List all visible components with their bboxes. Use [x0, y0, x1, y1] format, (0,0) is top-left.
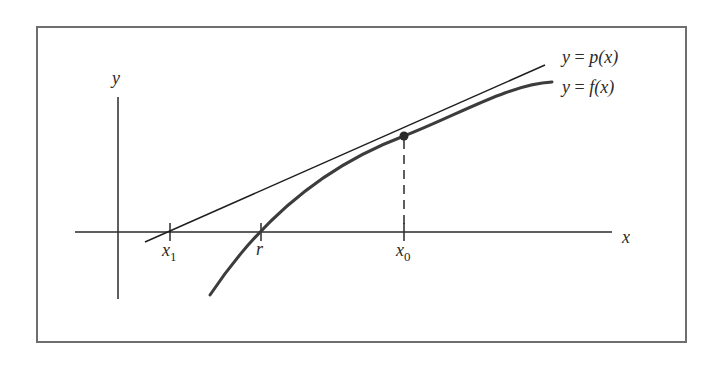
label-curve-f: y = f(x): [560, 77, 614, 98]
tick-label-r: r: [256, 239, 264, 259]
tick-label-x0: x0: [395, 240, 411, 264]
y-axis-label: y: [110, 68, 120, 88]
tangent-line-p: [145, 65, 545, 242]
label-tangent-p: y = p(x): [560, 47, 618, 68]
tick-label-x1: x1: [161, 240, 177, 264]
figure-frame: [37, 27, 686, 342]
newton-method-figure: y x x1 r x0 y = p(x) y =: [0, 0, 719, 368]
point-at-x0: [400, 132, 409, 141]
curve-f: [210, 82, 552, 295]
x-axis-label: x: [621, 227, 630, 247]
